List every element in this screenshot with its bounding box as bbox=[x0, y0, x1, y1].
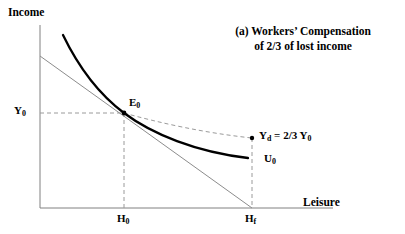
curve-label-u0: U0 bbox=[264, 153, 276, 166]
y-tick-label-y0-sub: 0 bbox=[22, 109, 26, 118]
x-axis-label: Leisure bbox=[303, 196, 340, 208]
curve-label-u0-sub: 0 bbox=[272, 157, 276, 166]
panel-title-line-2: of 2/3 of lost income bbox=[254, 40, 352, 52]
y-axis-label: Income bbox=[8, 6, 44, 18]
x-tick-label-hf: Hf bbox=[245, 213, 256, 226]
annotation-label-yd-base: Y bbox=[259, 129, 267, 141]
x-tick-label-hf-sub: f bbox=[254, 217, 257, 226]
x-tick-label-h0-base: H bbox=[117, 212, 126, 224]
panel-title-line-1: (a) Workers’ Compensation bbox=[235, 25, 371, 37]
point-label-e0-sub: 0 bbox=[136, 101, 140, 110]
panel-title: (a) Workers’ Compensationof 2/3 of lost … bbox=[213, 24, 393, 54]
y-tick-label-y0-base: Y bbox=[14, 104, 22, 116]
budget-line bbox=[40, 56, 252, 208]
point-marker-yd bbox=[250, 136, 254, 140]
annotation-label-yd: Yd = 2/3 Y0 bbox=[259, 130, 311, 143]
annotation-label-yd-rhs: = 2/3 Y bbox=[271, 129, 307, 141]
curve-label-u0-base: U bbox=[264, 152, 272, 164]
y-tick-label-y0: Y0 bbox=[14, 105, 26, 118]
point-marker-e0 bbox=[122, 111, 127, 116]
x-tick-label-hf-base: H bbox=[245, 212, 254, 224]
x-tick-label-h0: H0 bbox=[117, 213, 130, 226]
point-label-e0: E0 bbox=[129, 97, 140, 110]
x-tick-label-h0-sub: 0 bbox=[126, 217, 130, 226]
economics-indifference-curve-figure: Income Leisure (a) Workers’ Compensation… bbox=[0, 0, 405, 234]
annotation-label-yd-rhs-sub: 0 bbox=[307, 134, 311, 143]
